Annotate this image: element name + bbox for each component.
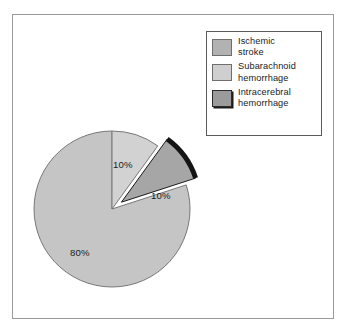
pie-label-subarachnoid-hemorrhage: 10% [113, 159, 133, 170]
legend-item-ischemic-stroke[interactable]: Ischemic stroke [212, 36, 318, 58]
legend-swatch-subarachnoid-hemorrhage [212, 64, 232, 81]
legend-label-ischemic-stroke: Ischemic stroke [238, 36, 275, 58]
legend-swatch-intracerebral-hemorrhage [212, 90, 232, 107]
pie-label-ischemic-stroke: 80% [70, 247, 90, 258]
legend-label-subarachnoid-hemorrhage: Subarachnoid hemorrhage [238, 61, 296, 83]
legend-swatch-ischemic-stroke [212, 39, 232, 56]
pie-label-intracerebral-hemorrhage: 10% [151, 190, 171, 201]
chart-legend: Ischemic stroke Subarachnoid hemorrhage … [206, 31, 322, 136]
figure-canvas: 80% 10% 10% Ischemic stroke Subarachnoid… [0, 0, 349, 336]
legend-label-intracerebral-hemorrhage: Intracerebral hemorrhage [238, 87, 291, 109]
legend-item-intracerebral-hemorrhage[interactable]: Intracerebral hemorrhage [212, 87, 318, 109]
legend-item-subarachnoid-hemorrhage[interactable]: Subarachnoid hemorrhage [212, 61, 318, 83]
